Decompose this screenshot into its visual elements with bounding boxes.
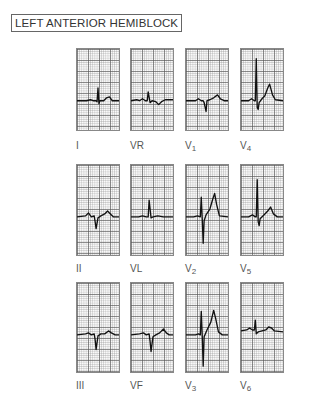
ecg-trace xyxy=(131,329,173,351)
ecg-trace xyxy=(241,180,283,226)
ecg-grid xyxy=(185,282,229,373)
lead-label: I xyxy=(76,140,79,153)
diagram-title: LEFT ANTERIOR HEMIBLOCK xyxy=(11,14,182,32)
ecg-trace xyxy=(77,88,119,104)
ecg-grid xyxy=(130,164,174,256)
ecg-grid xyxy=(240,282,284,373)
ecg-trace xyxy=(77,331,119,350)
ecg-trace xyxy=(131,200,173,218)
ecg-trace xyxy=(77,211,119,229)
ecg-grid xyxy=(185,164,229,256)
ecg-grid xyxy=(240,48,284,131)
lead-label: III xyxy=(76,380,84,393)
lead-label: V4 xyxy=(240,140,251,153)
ecg-grid xyxy=(76,164,120,256)
ecg-trace xyxy=(241,59,283,110)
lead-label: V6 xyxy=(240,380,251,393)
ecg-grid xyxy=(130,48,174,131)
ecg-trace xyxy=(186,95,228,112)
ecg-grid xyxy=(130,282,174,373)
lead-label: VL xyxy=(130,263,142,276)
ecg-trace xyxy=(131,92,173,105)
ecg-trace xyxy=(186,310,228,366)
ecg-trace xyxy=(241,320,283,334)
lead-label: VR xyxy=(130,140,144,153)
lead-label: V3 xyxy=(185,380,196,393)
lead-label: V2 xyxy=(185,263,196,276)
lead-label: V1 xyxy=(185,140,196,153)
ecg-grid xyxy=(240,164,284,256)
ecg-grid xyxy=(76,48,120,131)
ecg-grid xyxy=(76,282,120,373)
ecg-grid xyxy=(185,48,229,131)
ecg-trace xyxy=(186,193,228,243)
lead-label: VF xyxy=(130,380,143,393)
lead-label: II xyxy=(76,263,82,276)
lead-label: V5 xyxy=(240,263,251,276)
